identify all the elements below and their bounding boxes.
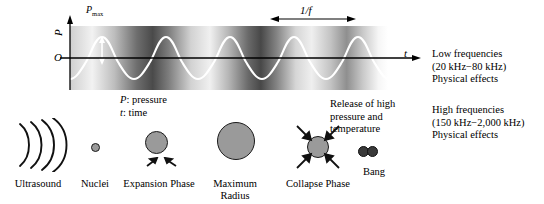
x-axis-arrowhead xyxy=(412,55,421,61)
bubble-maximum-radius xyxy=(217,122,255,160)
stage-label-expansion-phase: Expansion Phase xyxy=(116,178,202,190)
stage-label-bang: Bang xyxy=(350,166,398,178)
high-frequency-line-1: High frequencies xyxy=(432,104,525,117)
y-axis-arrowhead xyxy=(67,15,73,24)
bubble-nuclei xyxy=(91,143,100,152)
ultrasound-waves-icon xyxy=(6,118,68,172)
legend-pressure-row: P: pressure xyxy=(120,93,167,106)
stage-label-maximum-line-2: Radius xyxy=(200,190,270,202)
legend-time-row: t: time xyxy=(120,106,167,119)
collapse-arrows-icon xyxy=(295,124,341,170)
low-frequency-line-1: Low frequencies xyxy=(432,48,506,61)
ultrasound-arc-2 xyxy=(31,122,42,168)
y-axis-label: P xyxy=(52,29,64,36)
stage-label-maximum-radius: Maximum Radius xyxy=(200,178,270,202)
ultrasound-cavitation-diagram: P O t Pmax 1/f P: pressure t: time Low f… xyxy=(0,0,544,204)
bang-fragment-right xyxy=(367,146,378,157)
ultrasound-arc-4 xyxy=(53,118,67,172)
pmax-label: Pmax xyxy=(86,4,103,17)
stage-label-collapse-phase: Collapse Phase xyxy=(278,178,358,190)
expansion-arrows-icon xyxy=(133,128,185,168)
stage-label-nuclei: Nuclei xyxy=(72,178,118,190)
low-frequency-note: Low frequencies (20 kHz−80 kHz) Physical… xyxy=(432,48,506,86)
ultrasound-arc-1 xyxy=(20,124,29,166)
stage-label-ultrasound: Ultrasound xyxy=(2,178,74,190)
legend-pressure-text: : pressure xyxy=(126,94,167,105)
low-frequency-line-2: (20 kHz−80 kHz) xyxy=(432,61,506,74)
origin-label: O xyxy=(54,51,62,63)
symbol-legend: P: pressure t: time xyxy=(120,93,167,119)
low-frequency-line-3: Physical effects xyxy=(432,73,506,86)
pmax-subscript: max xyxy=(92,10,103,17)
high-frequency-line-2: (150 kHz−2,000 kHz) xyxy=(432,117,525,130)
release-line-2: pressure and xyxy=(330,111,395,124)
period-label: 1/f xyxy=(300,4,312,16)
axes-layer xyxy=(0,0,544,204)
release-line-1: Release of high xyxy=(330,98,395,111)
stage-label-maximum-line-1: Maximum xyxy=(200,178,270,190)
high-frequency-note: High frequencies (150 kHz−2,000 kHz) Phy… xyxy=(432,104,525,142)
ultrasound-arc-3 xyxy=(42,120,54,170)
high-frequency-line-3: Physical effects xyxy=(432,129,525,142)
legend-time-text: : time xyxy=(123,107,147,118)
period-span-arrow xyxy=(270,16,356,22)
x-axis-label: t xyxy=(404,47,407,59)
